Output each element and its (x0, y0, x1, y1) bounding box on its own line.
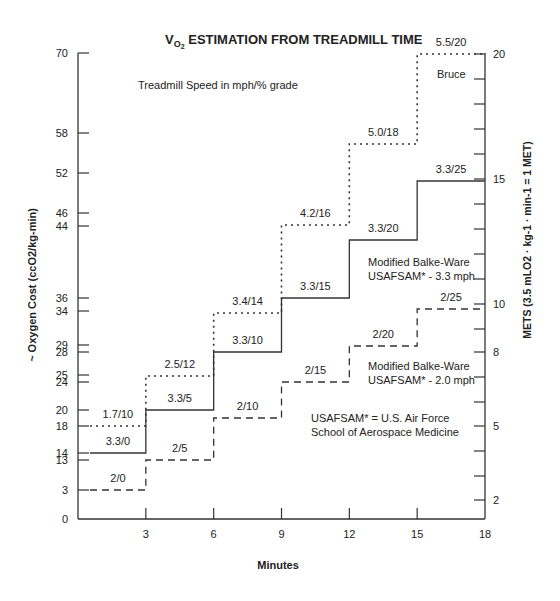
x-tick-label: 18 (479, 528, 491, 540)
y-tick-label-left: 20 (56, 404, 68, 416)
y-tick-label-left: 28 (56, 346, 68, 358)
step-label: 3.3/10 (232, 334, 263, 346)
step-label: 2/0 (110, 472, 125, 484)
step-label: 3.3/0 (106, 435, 130, 447)
y-tick-label-left: 52 (56, 167, 68, 179)
annotations: 1.7/102.5/123.4/144.2/165.0/185.5/203.3/… (103, 36, 475, 484)
step-label: 5.5/20 (436, 36, 467, 48)
step-label: 2.5/12 (164, 358, 195, 370)
step-label: 4.2/16 (300, 207, 331, 219)
y-tick-label-left: 0 (62, 513, 68, 525)
y-tick-label-left: 24 (56, 376, 68, 388)
y-tick-label-left: 44 (56, 220, 68, 232)
step-label: 2/5 (172, 442, 187, 454)
x-tick-label: 15 (411, 528, 423, 540)
footnote-line2: School of Aerospace Medicine (311, 426, 459, 438)
vo2-step-chart: VO2 ESTIMATION FROM TREADMILL TIME 70585… (0, 0, 560, 601)
legend-balke-20: Modified Balke-Ware (368, 360, 470, 372)
y-tick-label-left: 70 (56, 47, 68, 59)
step-label: 2/20 (373, 328, 394, 340)
step-label: 2/10 (237, 400, 258, 412)
y-tick-label-left: 3 (62, 484, 68, 496)
step-label: 1.7/10 (103, 408, 134, 420)
legend-balke-33: Modified Balke-Ware (368, 256, 470, 268)
footnote-line1: USAFSAM* = U.S. Air Force (311, 412, 449, 424)
y-tick-label-left: 34 (56, 305, 68, 317)
y-tick-label-right: 15 (493, 173, 505, 185)
x-tick-label: 3 (143, 528, 149, 540)
step-label: 2/25 (440, 291, 461, 303)
series-dashed-line (90, 309, 485, 490)
y-tick-label-left: 36 (56, 292, 68, 304)
step-label: 3.3/5 (168, 392, 192, 404)
x-tick-label: 12 (343, 528, 355, 540)
y-tick-label-left: 58 (56, 127, 68, 139)
legend-balke-33-line2: USAFSAM* - 3.3 mph (368, 270, 475, 282)
step-label: 3.3/15 (300, 280, 331, 292)
step-label: 2/15 (305, 364, 326, 376)
step-label: 3.3/25 (436, 163, 467, 175)
step-label: 3.3/20 (368, 222, 399, 234)
x-tick-label: 9 (278, 528, 284, 540)
y-tick-label-right: 5 (493, 420, 499, 432)
legend-bruce: Bruce (437, 68, 466, 80)
x-tick-label: 6 (211, 528, 217, 540)
step-label: 5.0/18 (368, 126, 399, 138)
y-axis-title-right: METS (3.5 mLO2 · kg-1 · min-1 = 1 MET) (521, 141, 533, 339)
y-tick-label-left: 18 (56, 420, 68, 432)
y-tick-label-left: 46 (56, 207, 68, 219)
y-tick-label-right: 20 (493, 48, 505, 60)
title-text: VO2 ESTIMATION FROM TREADMILL TIME (165, 32, 423, 50)
treadmill-speed-note: Treadmill Speed in mph/% grade (138, 79, 298, 91)
axes: 7058524644363429282524201814133020151085… (26, 47, 533, 571)
y-tick-label-right: 10 (493, 298, 505, 310)
y-tick-label-right: 8 (493, 346, 499, 358)
y-tick-label-left: 13 (56, 454, 68, 466)
step-label: 3.4/14 (232, 295, 263, 307)
chart-title: VO2 ESTIMATION FROM TREADMILL TIME (165, 32, 423, 50)
legend-balke-20-line2: USAFSAM* - 2.0 mph (368, 374, 475, 386)
y-axis-title-left: ~ Oxygen Cost (ccO2/kg-min) (26, 208, 38, 362)
y-tick-label-right: 2 (493, 494, 499, 506)
x-axis-title: Minutes (257, 559, 299, 571)
